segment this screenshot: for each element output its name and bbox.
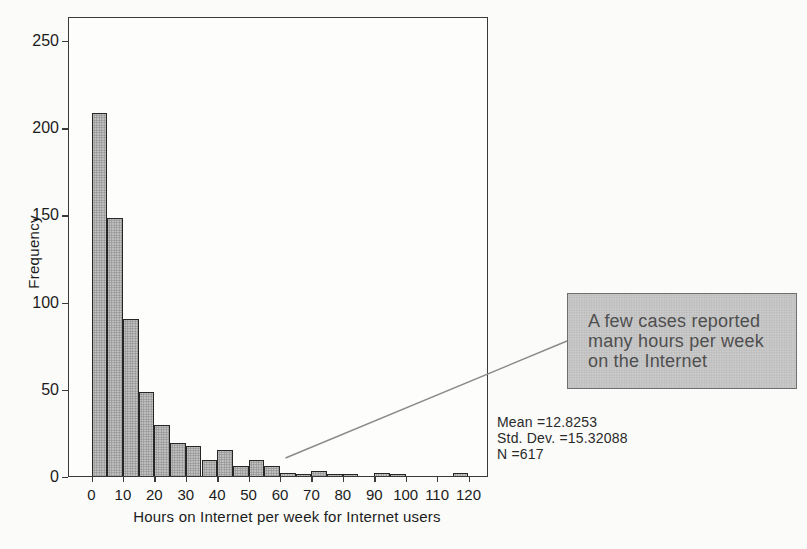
histogram-bar [186,446,202,476]
y-tick-mark [62,303,68,304]
y-tick-mark [62,390,68,391]
callout-text-line-3: on the Internet [588,351,788,371]
histogram-bar [217,450,233,476]
histogram-bar [390,474,406,476]
histogram-bar [92,113,108,476]
y-tick-label: 250 [0,32,59,50]
histogram-bar [374,473,390,477]
y-tick-label: 50 [0,381,59,399]
histogram-bar [107,218,123,476]
callout-box: A few cases reported many hours per week… [567,293,797,389]
stats-block: Mean =12.8253 Std. Dev. =15.32088 N =617 [497,414,628,462]
histogram-bar [264,466,280,477]
x-tick-mark [186,477,187,482]
y-tick-mark [62,477,68,478]
x-tick-mark [406,477,407,482]
x-tick-mark [217,477,218,482]
histogram-figure: 0102030405060708090100110120 05010015020… [0,0,807,549]
stat-n: N =617 [497,446,628,462]
y-tick-mark [62,128,68,129]
callout-text-line-2: many hours per week [588,331,788,351]
y-tick-label: 100 [0,294,59,312]
histogram-bar [154,425,170,476]
histogram-bar [123,319,139,476]
x-tick-mark [123,477,124,482]
histogram-bar [296,474,312,476]
x-tick-mark [343,477,344,482]
histogram-bar [170,443,186,476]
histogram-bar [202,460,218,476]
x-axis-title: Hours on Internet per week for Internet … [133,508,440,525]
histogram-bar [453,473,469,477]
y-tick-mark [62,41,68,42]
plot-area [68,17,488,477]
histogram-bar [327,474,343,476]
histogram-bar [233,466,249,477]
histogram-bar [343,474,359,476]
histogram-bar [311,471,327,476]
x-tick-label: 120 [447,486,491,503]
histogram-bar [139,392,155,476]
y-axis-title: Frequency [25,215,42,289]
histogram-bar [249,460,265,476]
x-tick-mark [154,477,155,482]
x-tick-mark [92,477,93,482]
x-tick-mark [249,477,250,482]
x-tick-mark [437,477,438,482]
y-tick-label: 200 [0,119,59,137]
x-tick-mark [374,477,375,482]
y-tick-mark [62,215,68,216]
x-tick-mark [469,477,470,482]
x-tick-mark [280,477,281,482]
bars-layer [69,18,487,476]
stat-mean: Mean =12.8253 [497,414,628,430]
callout-text-line-1: A few cases reported [588,311,788,331]
y-tick-label: 0 [0,468,59,486]
stat-std-dev: Std. Dev. =15.32088 [497,430,628,446]
histogram-bar [280,473,296,477]
x-tick-mark [311,477,312,482]
